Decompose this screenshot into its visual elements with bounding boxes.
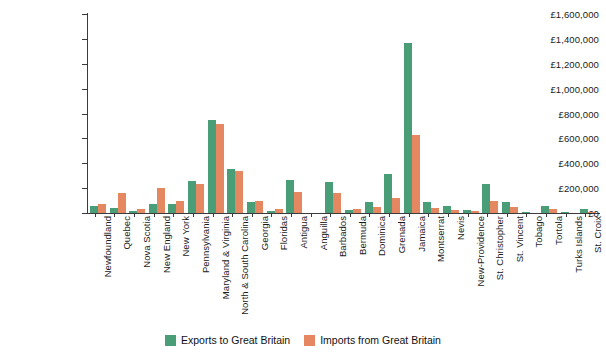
bar-group xyxy=(225,14,245,213)
bar-group xyxy=(520,14,540,213)
x-axis-label: North & South Carolina xyxy=(239,216,250,315)
legend-label: Imports from Great Britain xyxy=(320,334,441,346)
bar-group xyxy=(382,14,402,213)
bar-imports xyxy=(490,201,498,213)
bar-imports xyxy=(333,193,341,213)
x-axis-line xyxy=(87,213,600,214)
bar-exports xyxy=(325,182,333,213)
y-axis-tick-mark xyxy=(82,188,87,189)
y-axis-tick-mark xyxy=(82,163,87,164)
x-axis-label: Pennsylvania xyxy=(200,216,211,273)
bar-chart: £0£200,000£400,000£600,000£800,000£1,000… xyxy=(0,0,606,359)
bar-exports xyxy=(482,184,490,213)
bar-group xyxy=(186,14,206,213)
bar-group xyxy=(343,14,363,213)
y-axis-tick-mark xyxy=(82,114,87,115)
bar-imports xyxy=(137,209,145,213)
x-axis-label: St. Croix xyxy=(592,216,603,253)
x-axis-label: Anguilla xyxy=(318,216,329,250)
bar-group xyxy=(402,14,422,213)
bar-exports xyxy=(502,202,510,213)
bar-exports xyxy=(168,204,176,213)
bar-group xyxy=(363,14,383,213)
bar-imports xyxy=(588,212,596,213)
bar-exports xyxy=(247,202,255,213)
x-axis-label: New England xyxy=(161,216,172,273)
x-axis-label: Barbados xyxy=(337,216,348,257)
bar-imports xyxy=(196,184,204,213)
bar-group xyxy=(559,14,579,213)
x-axis-label: New-Providence xyxy=(475,216,486,286)
bar-imports xyxy=(392,198,400,213)
x-axis-label: Floridas xyxy=(278,216,289,250)
bar-exports xyxy=(208,120,216,213)
bar-imports xyxy=(510,207,518,213)
bar-groups xyxy=(88,14,598,213)
bar-group xyxy=(539,14,559,213)
bar-group xyxy=(108,14,128,213)
x-axis-label: Maryland & Virginia xyxy=(220,216,231,299)
x-axis-label: Tortola xyxy=(553,216,564,245)
bar-imports xyxy=(275,209,283,213)
x-axis-label: Grenada xyxy=(396,216,407,253)
bar-imports xyxy=(118,193,126,213)
y-axis-tick-mark xyxy=(82,213,87,214)
x-axis-label: Jamaica xyxy=(416,216,427,252)
x-axis-label: Montserrat xyxy=(435,216,446,262)
bar-imports xyxy=(176,201,184,213)
bar-imports xyxy=(451,210,459,213)
chart-legend: Exports to Great BritainImports from Gre… xyxy=(0,334,606,346)
bar-exports xyxy=(286,180,294,213)
bar-imports xyxy=(412,135,420,213)
x-axis-label: Nevis xyxy=(455,216,466,240)
y-axis-tick-mark xyxy=(82,64,87,65)
x-axis-label: Tobago xyxy=(533,216,544,247)
x-axis-label: Antigua xyxy=(298,216,309,249)
bar-group xyxy=(461,14,481,213)
x-axis-label: St. Christopher xyxy=(494,216,505,280)
y-axis-tick-mark xyxy=(82,138,87,139)
bar-exports xyxy=(541,206,549,213)
bar-group xyxy=(206,14,226,213)
bar-exports xyxy=(188,181,196,213)
x-axis-label: Georgia xyxy=(259,216,270,250)
y-axis-tick-mark xyxy=(82,89,87,90)
bar-exports xyxy=(149,204,157,213)
bar-exports xyxy=(443,206,451,213)
bar-group xyxy=(284,14,304,213)
bar-imports xyxy=(216,124,224,213)
bar-exports xyxy=(90,206,98,213)
bar-imports xyxy=(294,192,302,213)
bar-imports xyxy=(471,211,479,213)
x-axis-label: Bermuda xyxy=(357,216,368,255)
bar-imports xyxy=(235,171,243,213)
bar-group xyxy=(265,14,285,213)
bar-group xyxy=(441,14,461,213)
bar-group xyxy=(166,14,186,213)
bar-exports xyxy=(404,43,412,213)
legend-swatch-icon xyxy=(165,335,176,346)
bar-group xyxy=(500,14,520,213)
x-axis-label: Nova Scotia xyxy=(141,216,152,268)
bar-exports xyxy=(365,202,373,213)
bar-imports xyxy=(431,208,439,213)
x-axis-labels: NewfoundlandQuebecNova ScotiaNew England… xyxy=(88,216,598,326)
bar-group xyxy=(147,14,167,213)
bar-group xyxy=(88,14,108,213)
bar-group xyxy=(480,14,500,213)
x-axis-label: St. Vincent xyxy=(514,216,525,262)
bar-imports xyxy=(373,207,381,213)
bar-exports xyxy=(227,169,235,213)
bar-group xyxy=(245,14,265,213)
y-axis-tick-mark xyxy=(82,14,87,15)
bar-group xyxy=(304,14,324,213)
y-axis-tick-mark xyxy=(82,39,87,40)
legend-item[interactable]: Imports from Great Britain xyxy=(304,334,441,346)
legend-label: Exports to Great Britain xyxy=(181,334,290,346)
x-axis-label: Quebec xyxy=(121,216,132,250)
x-axis-label: New York xyxy=(180,216,191,257)
bar-group xyxy=(421,14,441,213)
legend-swatch-icon xyxy=(304,335,315,346)
bar-group xyxy=(127,14,147,213)
legend-item[interactable]: Exports to Great Britain xyxy=(165,334,290,346)
